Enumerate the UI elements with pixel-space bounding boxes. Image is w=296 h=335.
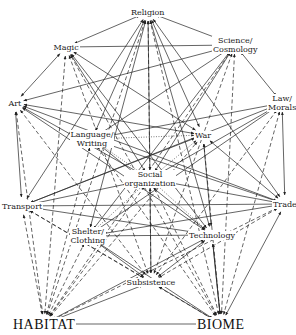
node-magic: Magic (53, 43, 80, 52)
edge-war-technology (204, 144, 211, 226)
node-subsistence: Subsistence (126, 278, 177, 287)
edge-biome-religion (150, 21, 219, 315)
edge-habitat-religion (47, 21, 145, 315)
edge-technology-subsistence (158, 241, 205, 277)
node-shelter: Shelter/ Clothing (70, 227, 107, 245)
edge-transport-habitat (24, 215, 43, 314)
edge-science-social (155, 53, 230, 172)
edge-magic-science (75, 45, 226, 47)
edge-shelter-subsistence (95, 241, 143, 276)
edge-art-transport (16, 112, 22, 197)
edge-law-biome (224, 112, 280, 315)
edge-trade-shelter (97, 205, 276, 234)
edge-biome-transport (30, 211, 213, 319)
edge-habitat-trade (53, 208, 277, 320)
influence-diagram: ReligionMagicScience/ CosmologyArtLaw/ M… (0, 0, 296, 335)
edge-magic-habitat (45, 56, 66, 314)
edge-biome-social (154, 187, 217, 315)
edge-law-shelter (95, 108, 274, 231)
edge-science-language (100, 50, 228, 134)
edge-law-trade (282, 112, 284, 195)
edge-social-subsistence (150, 188, 151, 273)
edge-magic-social (71, 55, 145, 172)
node-war: War (194, 131, 212, 140)
edge-transport-trade (31, 204, 276, 206)
edge-art-technology (23, 108, 205, 230)
edge-science-law (241, 52, 277, 96)
node-law: Law/ Morals (267, 94, 296, 112)
edge-war-trade (210, 141, 278, 198)
edge-magic-art (21, 54, 60, 97)
edge-law-subsistence (156, 110, 276, 274)
node-language: Language/ Writing (70, 130, 115, 148)
node-trade: Trade (272, 200, 296, 209)
node-habitat: HABITAT (12, 317, 76, 332)
edge-habitat-shelter (49, 244, 85, 315)
edge-religion-language (96, 20, 145, 131)
node-technology: Technology (188, 231, 236, 240)
node-social: Social organization (124, 170, 177, 188)
node-art: Art (8, 99, 23, 108)
edge-religion-technology (151, 21, 210, 227)
edge-art-habitat (16, 112, 43, 314)
edge-trade-subsistence (159, 209, 277, 278)
node-science: Science/ Cosmology (212, 36, 258, 54)
edge-art-science (24, 47, 227, 100)
edge-subsistence-habitat (53, 285, 142, 320)
node-biome: BIOME (196, 317, 246, 332)
node-transport: Transport (1, 202, 43, 211)
node-religion: Religion (130, 8, 166, 17)
edge-trade-biome (226, 212, 281, 315)
